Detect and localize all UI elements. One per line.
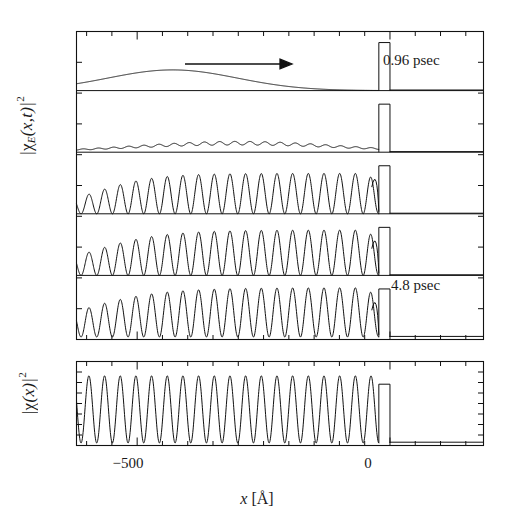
wavepacket-curve [77,173,379,213]
figure-root: |χE(x,t)|2 |χ(x)|2 0.96 psec 4.8 psec −5… [0,0,514,524]
propagation-direction-arrow [185,59,292,69]
barrier-edge-spike [372,179,379,211]
potential-well-group-top [379,43,390,337]
potential-well-bottom [379,384,390,443]
barrier-edge-spike [372,302,379,334]
wavepacket-curve-group [77,70,484,337]
wavepacket-curve [77,288,379,337]
barrier-edge-spike [372,241,379,273]
steady-state-curve-group [77,376,484,443]
wavepacket-curve [77,141,379,150]
wavepacket-curve [77,230,379,275]
steady-state-standing-wave [77,376,379,443]
plot-canvas [0,0,514,524]
wavepacket-curve [77,70,379,91]
